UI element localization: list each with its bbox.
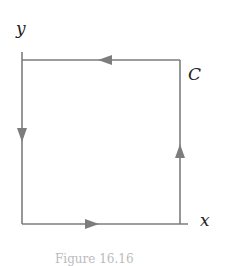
curve-label: C xyxy=(188,64,201,84)
figure-caption: Figure 16.16 xyxy=(55,252,134,266)
x-axis-label: x xyxy=(200,210,210,230)
arrow-right-icon xyxy=(85,219,99,229)
arrow-left-icon xyxy=(98,55,112,65)
arrow-down-icon xyxy=(17,128,27,142)
arrow-up-icon xyxy=(175,144,185,158)
y-axis-label: y xyxy=(16,18,26,38)
